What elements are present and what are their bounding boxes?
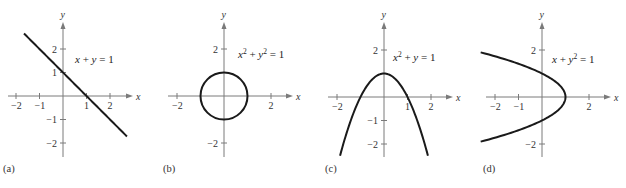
x-tick-label: −1 [35,100,46,111]
x-tick-label: −2 [11,100,22,111]
panel-label: (d) [483,163,496,175]
y-axis-label: y [60,9,66,20]
x-tick-label: −2 [490,101,501,112]
y-axis-label: y [539,9,545,20]
y-axis-arrow-icon [222,22,227,29]
equation-part: = 1 [577,53,594,65]
y-axis-arrow-icon [540,22,545,29]
equation-part: + [557,53,569,65]
y-tick-label: 2 [531,45,536,56]
curve-line [24,33,127,136]
equation-part: = 1 [418,51,435,63]
equation-label: x2 + y2 = 1 [237,47,284,60]
y-axis-arrow-icon [61,22,66,29]
x-axis-label: x [295,91,301,102]
equation-part: = 1 [97,53,114,65]
panel-label: (a) [3,163,15,175]
panel-b: xy−222−2x2 + y2 = 1(b) [163,9,301,175]
x-axis-label: x [135,91,141,102]
panel-a: xy−2−11221−1−2x + y = 1(a) [3,9,141,175]
panel-c: xy−2122−1−2x2 + y = 1(c) [325,9,461,175]
x-tick-label: −2 [172,100,183,111]
y-axis-arrow-icon [382,22,387,29]
y-tick-label: 2 [213,44,218,55]
equation-part: + [247,48,259,60]
y-tick-label: −2 [367,139,378,150]
equation-part: + [402,51,414,63]
equation-part: + [80,53,92,65]
panel-label: (c) [325,163,337,175]
x-tick-label: 2 [269,100,274,111]
y-tick-label: −1 [46,114,57,125]
x-tick-label: −2 [332,101,343,112]
y-tick-label: 2 [52,44,57,55]
y-axis-label: y [221,9,227,20]
panel-label: (b) [163,163,176,175]
y-tick-label: 2 [373,45,378,56]
y-axis-label: y [381,9,387,20]
x-tick-label: 2 [108,100,113,111]
y-tick-label: −2 [207,138,218,149]
equation-label: x + y2 = 1 [551,52,594,65]
x-tick-label: 2 [429,101,434,112]
x-tick-label: 1 [84,100,89,111]
panel-d: xy−2−122−2x + y2 = 1(d) [481,9,619,175]
equation-part: = 1 [267,48,284,60]
figure: xy−2−11221−1−2x + y = 1(a)xy−222−2x2 + y… [0,0,626,188]
y-tick-label: 1 [52,67,57,78]
y-tick-label: −2 [46,138,57,149]
x-axis-arrow-icon [126,94,133,99]
x-tick-label: −1 [514,101,525,112]
equation-label: x + y = 1 [74,53,114,65]
x-axis-arrow-icon [604,95,611,100]
x-axis-arrow-icon [446,95,453,100]
x-axis-label: x [613,92,619,103]
x-axis-arrow-icon [286,94,293,99]
equation-label: x2 + y = 1 [392,50,435,63]
y-tick-label: −1 [367,115,378,126]
x-axis-label: x [455,92,461,103]
x-tick-label: 2 [587,101,592,112]
y-tick-label: −2 [525,139,536,150]
